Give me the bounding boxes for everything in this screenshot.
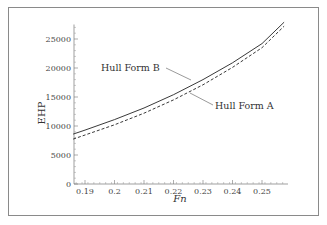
x-tick-label: 0.25 <box>253 187 271 196</box>
legend-hull-form-b: Hull Form B <box>101 62 160 73</box>
hull-form-b-line <box>73 22 284 134</box>
x-tick-label: 0.23 <box>194 187 212 196</box>
y-tick-label: 25000 <box>46 35 71 44</box>
y-tick-label: 10000 <box>46 122 71 131</box>
arrow-b <box>166 68 191 80</box>
y-axis-title: EHP <box>36 101 47 124</box>
x-tick-label: 0.19 <box>76 187 94 196</box>
ehp-chart: 05000100001500020000250000.190.20.210.22… <box>0 0 327 225</box>
y-tick-label: 0 <box>66 180 71 189</box>
y-tick-label: 5000 <box>51 151 71 160</box>
legend-hull-form-a: Hull Form A <box>215 100 274 111</box>
x-axis-title: Fn <box>172 193 186 204</box>
arrow-a <box>190 93 213 105</box>
y-tick-label: 15000 <box>46 93 71 102</box>
x-tick-label: 0.24 <box>224 187 242 196</box>
annotations: Hull Form B Hull Form A <box>101 62 274 111</box>
hull-form-a-line <box>73 26 284 139</box>
x-tick-label: 0.21 <box>135 187 153 196</box>
series-lines <box>73 22 284 139</box>
x-tick-label: 0.2 <box>108 187 121 196</box>
y-tick-label: 20000 <box>46 64 71 73</box>
